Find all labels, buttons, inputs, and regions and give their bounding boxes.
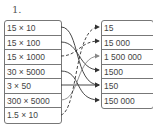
- connection-lines: [0, 0, 153, 124]
